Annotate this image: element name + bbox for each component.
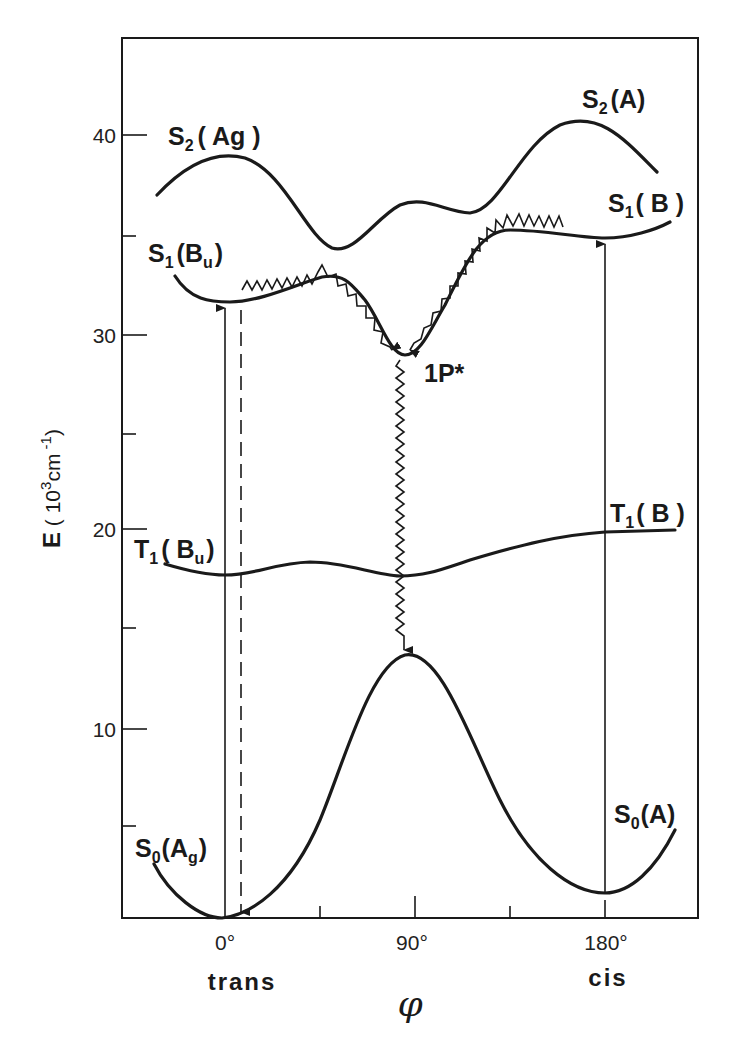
cis-label: cis <box>588 964 627 991</box>
x-axis-ticks <box>320 896 605 918</box>
y-tick-30: 30 <box>93 324 116 347</box>
wavy-arrow-down <box>396 360 404 650</box>
label-t1-b: T1( B ) <box>610 499 685 531</box>
label-s2-a: S2(A) <box>582 85 645 117</box>
y-axis-title: E ( 103cm -1) <box>37 429 65 548</box>
label-s1-bu: S1(Bu) <box>148 239 223 271</box>
potential-energy-diagram: 40 30 20 10 E ( 103cm -1) 0° 90° 180° tr… <box>0 0 732 1050</box>
y-tick-40: 40 <box>93 124 116 147</box>
label-s0-a: S0(A) <box>614 800 675 832</box>
svg-text:E ( 103cm -1): E ( 103cm -1) <box>37 429 65 548</box>
label-t1-bu: T1( Bu) <box>134 535 215 567</box>
x-tick-0: 0° <box>215 931 235 954</box>
plot-frame <box>122 38 698 918</box>
label-s2-ag: S2( Ag ) <box>168 122 261 154</box>
y-axis-ticks <box>122 135 147 826</box>
label-s1-b: S1( B ) <box>608 189 684 221</box>
label-1p-star: 1P* <box>424 359 465 387</box>
y-tick-10: 10 <box>93 718 116 741</box>
x-tick-180: 180° <box>584 931 627 954</box>
curve-s0 <box>154 655 675 918</box>
trans-label: trans <box>208 968 277 995</box>
label-s0-ag: S0(Ag) <box>135 834 207 866</box>
y-tick-20: 20 <box>93 518 116 541</box>
x-tick-90: 90° <box>396 931 428 954</box>
wavy-arrow-right <box>410 214 563 350</box>
phi-axis-title: φ <box>397 983 423 1024</box>
